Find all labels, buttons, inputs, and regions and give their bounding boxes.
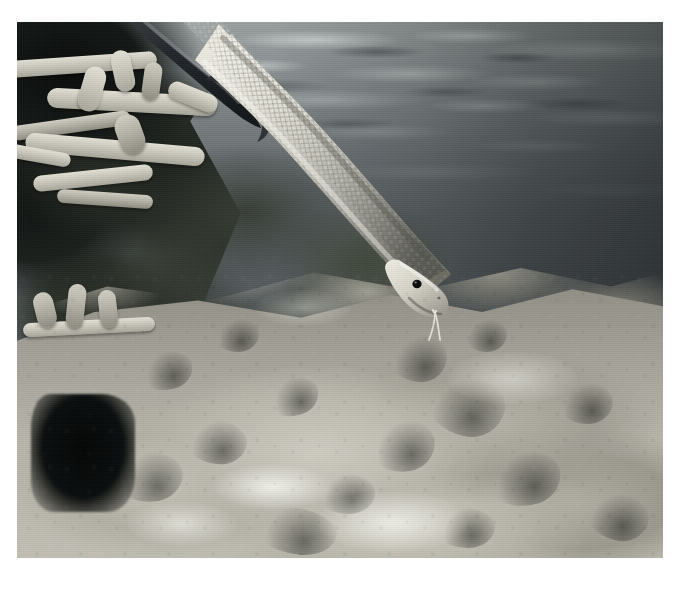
reef-fine-grain [17, 272, 663, 558]
photograph [17, 22, 663, 558]
screenshot-root: Olive sea snake swimming over a coral re… [0, 0, 681, 590]
